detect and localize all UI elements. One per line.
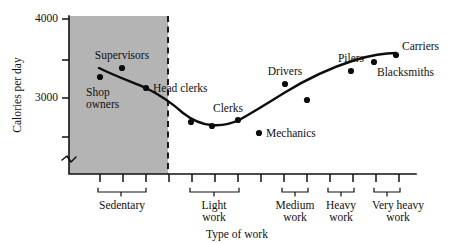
y-tick-marks xyxy=(62,19,69,137)
group-label-light-work-line2: work xyxy=(202,211,226,223)
point-label-blacksmiths: Blacksmiths xyxy=(377,66,434,78)
point-label-supervisors: Supervisors xyxy=(95,49,150,62)
chart-canvas: 4000 3000 Calories per day xyxy=(0,0,450,243)
bracket-medium-work xyxy=(282,188,308,196)
bracket-light-work xyxy=(190,188,239,196)
calories-vs-work-chart: 4000 3000 Calories per day xyxy=(0,0,450,243)
bracket-heavy-work xyxy=(328,188,354,196)
data-point-light-work-1 xyxy=(188,119,194,125)
x-axis-title: Type of work xyxy=(206,228,268,241)
y-tick-label-3000: 3000 xyxy=(35,91,58,103)
sedentary-shaded-region xyxy=(69,16,168,174)
data-point-medium-work-2 xyxy=(304,97,310,103)
point-label-pilers: Pilers xyxy=(338,52,365,64)
data-point-drivers xyxy=(282,81,288,87)
data-point-carriers xyxy=(393,52,399,58)
point-label-carriers: Carriers xyxy=(402,40,440,52)
bracket-sedentary xyxy=(98,188,146,196)
data-point-pilers xyxy=(348,68,354,74)
data-point-head-clerks xyxy=(143,85,149,91)
data-point-mechanics xyxy=(256,130,262,136)
group-brackets xyxy=(98,188,400,196)
data-point-supervisors xyxy=(119,65,125,71)
group-label-medium-work-line1: Medium xyxy=(276,199,315,211)
group-label-very-heavy-work-line2: work xyxy=(386,211,410,223)
y-tick-label-4000: 4000 xyxy=(35,12,58,24)
group-label-heavy-work-line2: work xyxy=(329,211,353,223)
bracket-very-heavy-work xyxy=(374,188,400,196)
point-label-mechanics: Mechanics xyxy=(266,127,316,139)
group-label-medium-work-line2: work xyxy=(283,211,307,223)
data-point-light-work-2 xyxy=(209,123,215,129)
y-axis-title: Calories per day xyxy=(11,57,24,133)
point-label-drivers: Drivers xyxy=(268,65,303,77)
point-label-head-clerks: Head clerks xyxy=(153,82,208,94)
group-label-sedentary: Sedentary xyxy=(99,199,145,212)
x-tick-marks xyxy=(100,174,399,182)
data-point-blacksmiths xyxy=(371,59,377,65)
point-label-clerks: Clerks xyxy=(213,102,244,114)
point-label-shop-owners-line2: owners xyxy=(86,98,120,110)
data-point-clerks xyxy=(235,117,241,123)
data-point-shop-owners xyxy=(97,74,103,80)
